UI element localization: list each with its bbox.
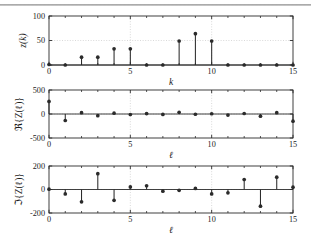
stem-marker	[161, 113, 165, 117]
stem-point	[161, 189, 165, 193]
y-axis-label: ℜ{Z(ℓ)}	[14, 97, 25, 131]
ytick-label: 100	[33, 12, 45, 21]
stem-marker	[226, 113, 230, 117]
stem-point	[226, 113, 230, 117]
x-axis-label: ℓ	[169, 150, 173, 160]
stem-point	[275, 175, 279, 189]
stem-point	[96, 172, 100, 190]
y-axis-label: z(k)	[18, 33, 29, 48]
x-axis-label: ℓ	[169, 225, 173, 235]
stem-marker	[112, 47, 116, 51]
stem-marker	[210, 192, 214, 196]
stem-marker	[177, 39, 181, 43]
x-axis-label: k	[169, 77, 174, 87]
xtick-label: 10	[208, 215, 216, 224]
stem-point	[80, 190, 84, 204]
stem-point	[194, 32, 198, 65]
stem-marker	[145, 112, 149, 116]
stem-point	[80, 111, 84, 115]
stem-point	[242, 112, 246, 116]
stem-point	[259, 114, 263, 118]
y-axis-label: ℑ{Z(ℓ)}	[14, 173, 25, 206]
stem-marker	[112, 111, 116, 115]
stem-point	[63, 114, 67, 122]
stem-marker	[194, 32, 198, 36]
stem-marker	[210, 112, 214, 116]
stem-marker	[96, 55, 100, 59]
stem-marker	[259, 204, 263, 208]
ytick-label: 50	[37, 36, 45, 45]
stem-marker	[112, 198, 116, 202]
stem-point	[210, 112, 214, 116]
stem-marker	[80, 55, 84, 59]
xtick-label: 0	[47, 215, 51, 224]
top-rule	[0, 4, 311, 6]
stem-point	[161, 113, 165, 117]
panel-3: 051015-2000200ℓℑ{Z(ℓ)}	[14, 162, 297, 235]
panel-2: 051015-5000500ℓℜ{Z(ℓ)}	[14, 86, 297, 160]
xtick-label: 15	[289, 215, 297, 224]
stem-point	[112, 47, 116, 65]
stem-marker	[128, 113, 132, 117]
stem-point	[128, 185, 132, 189]
xtick-label: 15	[289, 67, 297, 76]
stem-marker	[194, 187, 198, 191]
stem-point	[194, 187, 198, 191]
ytick-label: 200	[33, 162, 45, 171]
ytick-label: 0	[41, 110, 45, 119]
xtick-label: 0	[47, 140, 51, 149]
stem-marker	[145, 184, 149, 188]
stem-marker	[275, 111, 279, 115]
stem-point	[96, 114, 100, 118]
xtick-label: 15	[289, 140, 297, 149]
stem-point	[226, 190, 230, 195]
stem-point	[63, 190, 67, 196]
stem-point	[145, 184, 149, 190]
xtick-label: 5	[128, 215, 132, 224]
ytick-label: -500	[30, 134, 45, 143]
stem-point	[259, 190, 263, 209]
stem-point	[177, 188, 181, 192]
stem-marker	[210, 39, 214, 43]
xtick-label: 0	[47, 67, 51, 76]
stem-point	[210, 39, 214, 65]
stem-point	[242, 178, 246, 190]
xtick-label: 5	[128, 67, 132, 76]
stem-marker	[259, 114, 263, 118]
ytick-label: 0	[41, 185, 45, 194]
stem-point	[145, 112, 149, 116]
stem-marker	[177, 110, 181, 114]
ytick-label: 500	[33, 86, 45, 95]
stem-marker	[226, 191, 230, 195]
stem-plot-figure: 051015050100kz(k)051015-5000500ℓℜ{Z(ℓ)}0…	[0, 0, 311, 236]
stem-point	[177, 39, 181, 65]
stem-marker	[128, 185, 132, 189]
stem-marker	[128, 47, 132, 51]
stem-marker	[242, 112, 246, 116]
stem-marker	[242, 178, 246, 182]
stem-marker	[80, 200, 84, 204]
stem-marker	[96, 172, 100, 176]
ytick-label: 0	[41, 61, 45, 70]
stem-point	[177, 110, 181, 114]
panel-1: 051015050100kz(k)	[18, 12, 297, 87]
xtick-label: 10	[208, 140, 216, 149]
stem-point	[194, 112, 198, 116]
stem-point	[210, 190, 214, 196]
stem-point	[128, 113, 132, 117]
stem-marker	[63, 119, 67, 123]
ytick-label: -200	[30, 209, 45, 218]
xtick-label: 5	[128, 140, 132, 149]
stem-point	[112, 190, 116, 203]
stem-marker	[275, 175, 279, 179]
stem-marker	[194, 112, 198, 116]
xtick-label: 10	[208, 67, 216, 76]
stem-marker	[161, 189, 165, 193]
stem-point	[275, 111, 279, 115]
stem-marker	[80, 111, 84, 115]
figure-container: 051015050100kz(k)051015-5000500ℓℜ{Z(ℓ)}0…	[0, 0, 311, 236]
stem-marker	[96, 114, 100, 118]
stem-marker	[63, 192, 67, 196]
stem-marker	[177, 188, 181, 192]
stem-point	[112, 111, 116, 115]
